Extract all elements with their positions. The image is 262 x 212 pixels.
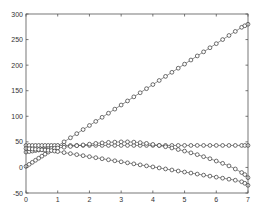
circle-marker-icon: [202, 144, 206, 148]
circle-marker-icon: [176, 144, 180, 148]
plot-background: [26, 14, 248, 193]
circle-marker-icon: [138, 141, 142, 145]
x-tick-label: 0: [24, 196, 28, 203]
circle-marker-icon: [151, 165, 155, 169]
circle-marker-icon: [227, 177, 231, 181]
circle-marker-icon: [183, 62, 187, 66]
circle-marker-icon: [100, 141, 104, 145]
circle-marker-icon: [233, 178, 237, 182]
circle-marker-icon: [107, 158, 111, 162]
circle-marker-icon: [145, 141, 149, 145]
circle-marker-icon: [183, 170, 187, 174]
circle-marker-icon: [132, 95, 136, 99]
y-tick-label: 150: [11, 87, 23, 94]
circle-marker-icon: [164, 74, 168, 78]
circle-marker-icon: [164, 167, 168, 171]
circle-marker-icon: [88, 142, 92, 146]
circle-marker-icon: [119, 160, 123, 164]
circle-marker-icon: [183, 149, 187, 153]
circle-marker-icon: [75, 132, 79, 136]
circle-marker-icon: [151, 143, 155, 147]
y-tick-label: 300: [11, 11, 23, 18]
y-tick-label: -50: [13, 190, 23, 197]
circle-marker-icon: [75, 144, 79, 148]
circle-marker-icon: [221, 161, 225, 165]
circle-marker-icon: [157, 79, 161, 83]
circle-marker-icon: [170, 146, 174, 150]
circle-marker-icon: [176, 148, 180, 152]
circle-marker-icon: [151, 83, 155, 87]
circle-marker-icon: [138, 163, 142, 167]
y-tick-label: 0: [19, 164, 23, 171]
circle-marker-icon: [195, 144, 199, 148]
circle-marker-icon: [138, 91, 142, 95]
circle-marker-icon: [157, 166, 161, 170]
circle-marker-icon: [113, 107, 117, 111]
circle-marker-icon: [62, 151, 66, 155]
circle-marker-icon: [145, 164, 149, 168]
y-tick-label: 250: [11, 36, 23, 43]
circle-marker-icon: [170, 70, 174, 74]
circle-marker-icon: [75, 153, 79, 157]
circle-marker-icon: [208, 157, 212, 161]
x-tick-label: 5: [183, 196, 187, 203]
circle-marker-icon: [113, 159, 117, 163]
circle-marker-icon: [221, 176, 225, 180]
circle-marker-icon: [233, 29, 237, 33]
x-tick-label: 4: [151, 196, 155, 203]
circle-marker-icon: [195, 172, 199, 176]
circle-marker-icon: [189, 151, 193, 155]
circle-marker-icon: [208, 174, 212, 178]
circle-marker-icon: [126, 99, 130, 103]
x-tick-label: 7: [246, 196, 250, 203]
y-tick-label: 100: [11, 113, 23, 120]
circle-marker-icon: [227, 144, 231, 148]
circle-marker-icon: [88, 155, 92, 159]
circle-marker-icon: [69, 152, 73, 156]
circle-marker-icon: [227, 34, 231, 38]
y-tick-label: 200: [11, 62, 23, 69]
circle-marker-icon: [126, 144, 130, 148]
circle-marker-icon: [126, 140, 130, 144]
circle-marker-icon: [233, 167, 237, 171]
circle-marker-icon: [62, 140, 66, 144]
circle-marker-icon: [195, 54, 199, 58]
circle-marker-icon: [56, 146, 60, 150]
circle-marker-icon: [214, 42, 218, 46]
circle-marker-icon: [113, 140, 117, 144]
circle-marker-icon: [157, 144, 161, 148]
circle-marker-icon: [221, 38, 225, 42]
circle-marker-icon: [145, 87, 149, 91]
circle-marker-icon: [214, 159, 218, 163]
circle-marker-icon: [69, 136, 73, 140]
circle-marker-icon: [132, 162, 136, 166]
circle-marker-icon: [94, 141, 98, 145]
circle-marker-icon: [189, 144, 193, 148]
circle-marker-icon: [107, 140, 111, 144]
circle-marker-icon: [119, 144, 123, 148]
circle-marker-icon: [170, 168, 174, 172]
line-chart: 01234567-50050100150200250300: [0, 0, 262, 212]
circle-marker-icon: [176, 66, 180, 70]
x-tick-label: 3: [119, 196, 123, 203]
circle-marker-icon: [202, 50, 206, 54]
circle-marker-icon: [100, 157, 104, 161]
circle-marker-icon: [221, 144, 225, 148]
x-tick-label: 2: [87, 196, 91, 203]
circle-marker-icon: [81, 143, 85, 147]
x-tick-label: 1: [56, 196, 60, 203]
y-tick-label: 50: [15, 138, 23, 145]
x-tick-label: 6: [214, 196, 218, 203]
circle-marker-icon: [227, 164, 231, 168]
circle-marker-icon: [214, 144, 218, 148]
circle-marker-icon: [94, 120, 98, 124]
circle-marker-icon: [243, 173, 247, 177]
circle-marker-icon: [214, 175, 218, 179]
circle-marker-icon: [56, 150, 60, 154]
circle-marker-icon: [119, 103, 123, 107]
circle-marker-icon: [81, 154, 85, 158]
circle-marker-icon: [62, 145, 66, 149]
circle-marker-icon: [189, 171, 193, 175]
circle-marker-icon: [69, 145, 73, 149]
circle-marker-icon: [195, 153, 199, 157]
